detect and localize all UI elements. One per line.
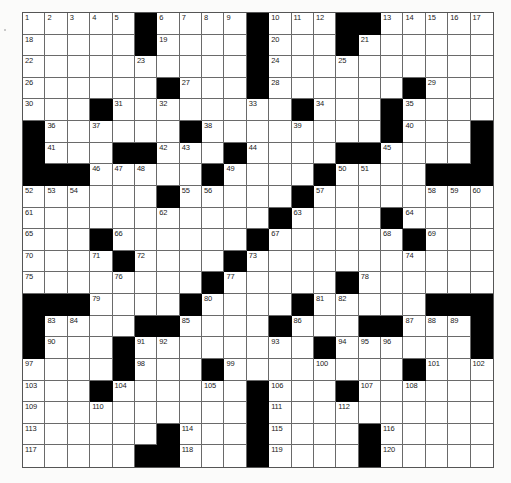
answer-square[interactable]	[90, 272, 112, 294]
answer-square[interactable]: 2	[45, 13, 67, 35]
answer-square[interactable]: 3	[68, 13, 90, 35]
answer-square[interactable]: 105	[202, 381, 224, 403]
answer-square[interactable]: 55	[180, 186, 202, 208]
answer-square[interactable]: 93	[269, 337, 291, 359]
answer-square[interactable]	[269, 359, 291, 381]
answer-square[interactable]	[426, 272, 448, 294]
answer-square[interactable]: 17	[471, 13, 493, 35]
answer-square[interactable]	[448, 229, 470, 251]
answer-square[interactable]	[426, 381, 448, 403]
answer-square[interactable]	[314, 56, 336, 78]
answer-square[interactable]: 33	[247, 99, 269, 121]
answer-square[interactable]	[381, 402, 403, 424]
answer-square[interactable]	[224, 445, 246, 467]
answer-square[interactable]: 62	[157, 208, 179, 230]
answer-square[interactable]: 95	[359, 337, 381, 359]
answer-square[interactable]: 85	[180, 316, 202, 338]
answer-square[interactable]	[68, 56, 90, 78]
answer-square[interactable]	[336, 445, 358, 467]
answer-square[interactable]: 118	[180, 445, 202, 467]
answer-square[interactable]	[180, 208, 202, 230]
answer-square[interactable]	[247, 272, 269, 294]
answer-square[interactable]: 76	[113, 272, 135, 294]
answer-square[interactable]	[426, 99, 448, 121]
answer-square[interactable]	[359, 56, 381, 78]
answer-square[interactable]	[403, 186, 425, 208]
answer-square[interactable]	[45, 78, 67, 100]
answer-square[interactable]: 40	[403, 121, 425, 143]
answer-square[interactable]	[90, 424, 112, 446]
answer-square[interactable]: 19	[157, 35, 179, 57]
answer-square[interactable]	[68, 121, 90, 143]
answer-square[interactable]: 106	[269, 381, 291, 403]
answer-square[interactable]	[202, 445, 224, 467]
answer-square[interactable]	[113, 186, 135, 208]
answer-square[interactable]: 114	[180, 424, 202, 446]
answer-square[interactable]	[180, 272, 202, 294]
answer-square[interactable]	[292, 337, 314, 359]
answer-square[interactable]	[403, 164, 425, 186]
answer-square[interactable]	[336, 186, 358, 208]
answer-square[interactable]: 80	[202, 294, 224, 316]
answer-square[interactable]	[314, 78, 336, 100]
answer-square[interactable]	[269, 164, 291, 186]
answer-square[interactable]	[202, 229, 224, 251]
answer-square[interactable]	[247, 337, 269, 359]
answer-square[interactable]	[157, 164, 179, 186]
answer-square[interactable]	[224, 337, 246, 359]
answer-square[interactable]: 48	[135, 164, 157, 186]
answer-square[interactable]	[68, 229, 90, 251]
answer-square[interactable]: 98	[135, 359, 157, 381]
answer-square[interactable]: 4	[90, 13, 112, 35]
answer-square[interactable]: 5	[113, 13, 135, 35]
answer-square[interactable]: 10	[269, 13, 291, 35]
answer-square[interactable]	[381, 78, 403, 100]
answer-square[interactable]: 61	[23, 208, 45, 230]
answer-square[interactable]	[381, 251, 403, 273]
answer-square[interactable]	[90, 35, 112, 57]
answer-square[interactable]: 103	[23, 381, 45, 403]
answer-square[interactable]	[202, 99, 224, 121]
answer-square[interactable]: 7	[180, 13, 202, 35]
answer-square[interactable]	[180, 35, 202, 57]
answer-square[interactable]	[292, 35, 314, 57]
answer-square[interactable]	[292, 272, 314, 294]
answer-square[interactable]	[269, 99, 291, 121]
answer-square[interactable]: 12	[314, 13, 336, 35]
answer-square[interactable]	[68, 424, 90, 446]
answer-square[interactable]	[381, 56, 403, 78]
answer-square[interactable]: 6	[157, 13, 179, 35]
answer-square[interactable]: 74	[403, 251, 425, 273]
answer-square[interactable]	[224, 294, 246, 316]
answer-square[interactable]: 112	[336, 402, 358, 424]
answer-square[interactable]	[247, 121, 269, 143]
answer-square[interactable]	[202, 78, 224, 100]
answer-square[interactable]	[90, 316, 112, 338]
answer-square[interactable]: 91	[135, 337, 157, 359]
answer-square[interactable]: 18	[23, 35, 45, 57]
answer-square[interactable]	[45, 251, 67, 273]
answer-square[interactable]: 45	[381, 143, 403, 165]
answer-square[interactable]	[269, 294, 291, 316]
answer-square[interactable]	[314, 445, 336, 467]
answer-square[interactable]	[202, 402, 224, 424]
answer-square[interactable]	[45, 359, 67, 381]
answer-square[interactable]	[336, 121, 358, 143]
answer-square[interactable]	[314, 229, 336, 251]
answer-square[interactable]: 23	[135, 56, 157, 78]
answer-square[interactable]	[135, 208, 157, 230]
answer-square[interactable]	[68, 272, 90, 294]
answer-square[interactable]: 100	[314, 359, 336, 381]
answer-square[interactable]: 29	[426, 78, 448, 100]
answer-square[interactable]	[471, 35, 493, 57]
answer-square[interactable]	[448, 424, 470, 446]
answer-square[interactable]	[359, 229, 381, 251]
answer-square[interactable]	[336, 99, 358, 121]
answer-square[interactable]	[336, 229, 358, 251]
answer-square[interactable]	[314, 272, 336, 294]
answer-square[interactable]	[426, 402, 448, 424]
answer-square[interactable]	[359, 78, 381, 100]
answer-square[interactable]	[90, 143, 112, 165]
answer-square[interactable]: 25	[336, 56, 358, 78]
answer-square[interactable]	[135, 186, 157, 208]
